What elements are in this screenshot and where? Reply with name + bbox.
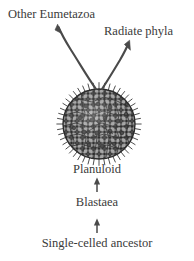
label-blastaea: Blastaea <box>0 196 194 209</box>
arrow-blastaea-to-planuloid <box>94 178 100 193</box>
label-planuloid: Planuloid <box>0 163 194 176</box>
arrow-ancestor-to-blastaea <box>94 219 100 234</box>
label-other-eumetazoa: Other Eumetazoa <box>8 8 95 21</box>
branch-to-other-eumetazoa <box>55 24 96 89</box>
label-single-celled-ancestor: Single-celled ancestor <box>0 237 194 250</box>
figure-canvas: Other Eumetazoa Radiate phyla Planuloid … <box>0 0 194 261</box>
figure-graphics <box>0 0 194 261</box>
branch-to-radiate-phyla <box>102 40 130 89</box>
label-radiate-phyla: Radiate phyla <box>104 25 173 38</box>
